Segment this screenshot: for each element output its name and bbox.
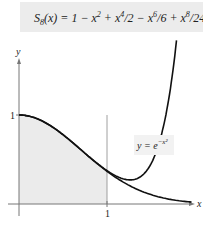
y-arrow-icon bbox=[17, 58, 21, 64]
y-axis-label: y bbox=[15, 46, 21, 57]
x-axis-label: x bbox=[196, 198, 202, 209]
plot: 1 1 x y y = e−x² bbox=[0, 0, 203, 229]
x-tick-label: 1 bbox=[105, 208, 110, 219]
shaded-area bbox=[19, 115, 107, 204]
y-tick-label: 1 bbox=[10, 110, 15, 121]
